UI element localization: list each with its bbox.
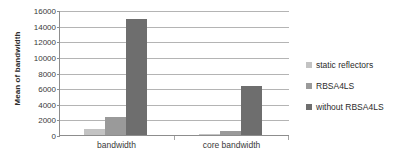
legend-swatch-icon <box>306 83 312 89</box>
y-axis-tick-label: 6000 <box>14 85 56 94</box>
bar[interactable] <box>84 129 105 135</box>
y-axis-tick-label: 10000 <box>14 53 56 62</box>
legend-label: without RBSA4LS <box>316 102 384 112</box>
y-axis-tick-mark <box>57 58 60 59</box>
legend-swatch-icon <box>306 62 312 68</box>
x-axis-divider <box>288 136 289 140</box>
y-axis-tick-label: 4000 <box>14 100 56 109</box>
bar-group <box>199 11 262 135</box>
chart-legend: static reflectorsRBSA4LSwithout RBSA4LS <box>306 55 397 118</box>
y-axis-tick-mark <box>57 105 60 106</box>
x-axis-category-label: core bandwidth <box>203 140 261 150</box>
y-axis-tick-mark <box>57 42 60 43</box>
legend-swatch-icon <box>306 104 312 110</box>
y-axis-tick-label: 16000 <box>14 7 56 16</box>
legend-item[interactable]: RBSA4LS <box>306 76 397 96</box>
x-axis-category-label: bandwidth <box>97 140 136 150</box>
y-axis-tick-label: 8000 <box>14 69 56 78</box>
y-axis-tick-label: 14000 <box>14 22 56 31</box>
legend-item[interactable]: without RBSA4LS <box>306 97 397 117</box>
y-axis-tick-labels: 0200040006000800010000120001400016000 <box>14 11 56 136</box>
x-axis-category-labels: bandwidthcore bandwidth <box>59 140 289 156</box>
bar-chart: Mean of bandwidth 0200040006000800010000… <box>0 0 397 166</box>
bar[interactable] <box>126 19 147 135</box>
y-axis-tick-mark <box>57 120 60 121</box>
x-axis-divider <box>174 136 175 140</box>
y-axis-tick-mark <box>57 27 60 28</box>
y-axis-tick-mark <box>57 89 60 90</box>
bar[interactable] <box>105 117 126 135</box>
plot-area <box>59 11 289 136</box>
legend-item[interactable]: static reflectors <box>306 55 397 75</box>
y-axis-tick-mark <box>57 136 60 137</box>
bar[interactable] <box>199 134 220 135</box>
y-axis-tick-mark <box>57 11 60 12</box>
y-axis-tick-label: 0 <box>14 132 56 141</box>
bar[interactable] <box>241 86 262 135</box>
bar-group <box>84 11 147 135</box>
y-axis-tick-label: 12000 <box>14 38 56 47</box>
y-axis-tick-label: 2000 <box>14 116 56 125</box>
legend-label: static reflectors <box>316 60 373 70</box>
y-axis-tick-mark <box>57 74 60 75</box>
bar[interactable] <box>220 131 241 135</box>
bars-layer <box>60 11 289 135</box>
legend-label: RBSA4LS <box>316 81 354 91</box>
